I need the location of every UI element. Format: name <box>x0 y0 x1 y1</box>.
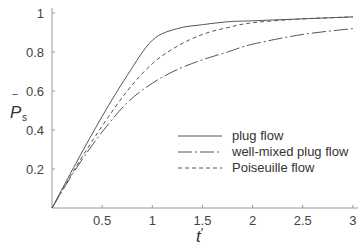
x-axis-label: t′ <box>196 225 204 246</box>
x-tick-label: 1 <box>149 213 156 228</box>
series-lines <box>52 17 353 208</box>
y-tick-label: 0.4 <box>26 123 44 138</box>
legend: plug flow well-mixed plug flow Poiseuill… <box>178 128 349 175</box>
x-tick-label: 3 <box>349 213 356 228</box>
y-axis-label: P ‾ s <box>10 92 27 123</box>
legend-label-poiseuille: Poiseuille flow <box>232 160 315 175</box>
y-tick-label: 0.6 <box>26 84 44 99</box>
legend-label-plug-flow: plug flow <box>232 128 284 143</box>
svg-text:‾: ‾ <box>12 92 18 107</box>
chart-svg: 0.511.522.53 0.20.40.60.81 t′ P ‾ s plug… <box>0 0 363 247</box>
y-ticks: 0.20.40.60.81 <box>26 6 55 177</box>
x-tick-label: 2 <box>249 213 256 228</box>
legend-label-well-mixed: well-mixed plug flow <box>231 144 349 159</box>
x-tick-label: 0.5 <box>93 213 111 228</box>
x-tick-label: 2.5 <box>294 213 312 228</box>
series-poiseuille-flow <box>52 17 353 208</box>
y-tick-label: 0.8 <box>26 45 44 60</box>
series-well-mixed-plug-flow <box>52 29 353 208</box>
y-tick-label: 1 <box>37 6 44 21</box>
series-plug-flow <box>52 17 353 208</box>
y-tick-label: 0.2 <box>26 162 44 177</box>
svg-text:s: s <box>22 112 27 123</box>
